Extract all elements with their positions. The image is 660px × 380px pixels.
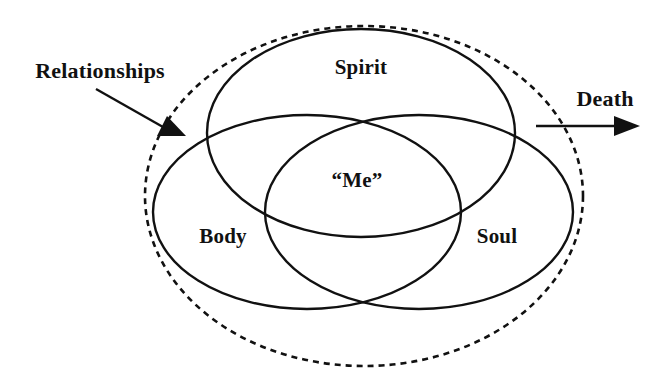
label-me-intersection: “Me” xyxy=(332,170,383,191)
label-spirit: Spirit xyxy=(335,57,388,78)
venn-diagram-canvas xyxy=(0,0,660,380)
relationships-arrow-line xyxy=(96,89,163,127)
label-body: Body xyxy=(199,226,247,247)
death-arrow-head xyxy=(614,116,640,136)
venn-diagram: Spirit Body Soul “Me” Relationships Deat… xyxy=(0,0,660,380)
label-relationships: Relationships xyxy=(35,60,165,82)
label-death: Death xyxy=(576,88,633,110)
label-soul: Soul xyxy=(477,226,518,247)
